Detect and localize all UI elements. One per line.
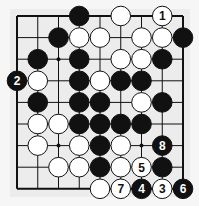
white-stone bbox=[132, 28, 152, 48]
black-stone bbox=[111, 114, 131, 134]
black-stone: 4 bbox=[132, 179, 152, 199]
move-number-label: 8 bbox=[159, 139, 166, 153]
star-point bbox=[140, 144, 144, 148]
black-stone bbox=[90, 93, 110, 113]
white-stone bbox=[49, 157, 69, 177]
white-stone bbox=[28, 71, 48, 91]
black-stone: 2 bbox=[7, 71, 27, 91]
black-stone bbox=[90, 136, 110, 156]
black-stone bbox=[90, 114, 110, 134]
white-stone bbox=[111, 49, 131, 69]
move-number-label: 2 bbox=[14, 74, 21, 88]
white-stone bbox=[111, 136, 131, 156]
black-stone bbox=[69, 49, 89, 69]
black-stone bbox=[173, 28, 193, 48]
black-stone bbox=[90, 157, 110, 177]
white-stone bbox=[90, 28, 110, 48]
move-number-label: 4 bbox=[138, 182, 145, 196]
white-stone bbox=[152, 28, 172, 48]
white-stone bbox=[132, 49, 152, 69]
white-stone: 3 bbox=[152, 179, 172, 199]
black-stone: 8 bbox=[152, 136, 172, 156]
go-board: 12857436 bbox=[0, 0, 199, 206]
black-stone bbox=[132, 114, 152, 134]
black-stone bbox=[152, 49, 172, 69]
black-stone: 6 bbox=[173, 179, 193, 199]
white-stone bbox=[111, 6, 131, 26]
move-number-label: 7 bbox=[117, 182, 124, 196]
black-stone bbox=[152, 157, 172, 177]
black-stone bbox=[69, 93, 89, 113]
black-stone bbox=[69, 71, 89, 91]
black-stone bbox=[49, 28, 69, 48]
white-stone bbox=[28, 136, 48, 156]
black-stone bbox=[69, 6, 89, 26]
move-number-label: 5 bbox=[138, 161, 145, 175]
white-stone bbox=[90, 179, 110, 199]
white-stone bbox=[69, 28, 89, 48]
white-stone bbox=[90, 71, 110, 91]
white-stone bbox=[132, 93, 152, 113]
white-stone: 7 bbox=[111, 179, 131, 199]
star-point bbox=[57, 57, 61, 61]
black-stone bbox=[28, 93, 48, 113]
star-point bbox=[57, 144, 61, 148]
white-stone bbox=[28, 114, 48, 134]
white-stone bbox=[49, 114, 69, 134]
black-stone bbox=[111, 71, 131, 91]
black-stone bbox=[28, 49, 48, 69]
white-stone bbox=[69, 157, 89, 177]
white-stone: 1 bbox=[152, 6, 172, 26]
move-number-label: 6 bbox=[180, 182, 187, 196]
black-stone bbox=[152, 93, 172, 113]
white-stone bbox=[111, 157, 131, 177]
white-stone bbox=[69, 136, 89, 156]
move-number-label: 1 bbox=[159, 9, 166, 23]
white-stone: 5 bbox=[132, 157, 152, 177]
move-number-label: 3 bbox=[159, 182, 166, 196]
black-stone bbox=[132, 71, 152, 91]
black-stone bbox=[69, 114, 89, 134]
